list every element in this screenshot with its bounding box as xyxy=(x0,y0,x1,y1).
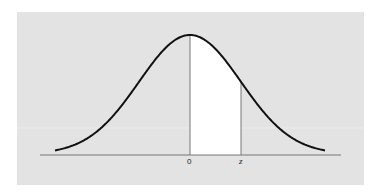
shaded-area-0-to-z xyxy=(190,35,241,155)
x-tick-z: z xyxy=(239,156,243,166)
x-tick-zero: 0 xyxy=(187,157,191,166)
normal-curve-chart xyxy=(0,0,382,196)
